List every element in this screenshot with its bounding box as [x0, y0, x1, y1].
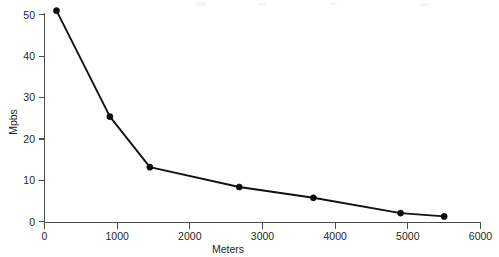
- data-point: [441, 213, 447, 219]
- y-tick-label: 0: [29, 216, 35, 228]
- x-axis: 0 1000 2000 3000 4000 5000 6000 Meters: [42, 223, 493, 256]
- data-point: [310, 195, 316, 201]
- data-point: [107, 114, 113, 120]
- y-tick-label: 50: [23, 9, 35, 21]
- y-tick-label: 30: [23, 91, 35, 103]
- y-axis-tick-labels: 50 40 30 20 10 0: [23, 9, 35, 228]
- x-tick-label: 0: [42, 230, 48, 242]
- y-axis: 50 40 30 20 10 0 Mpbs: [7, 9, 45, 228]
- data-point: [53, 8, 59, 14]
- y-tick-label: 40: [23, 50, 35, 62]
- chart-figure: 50 40 30 20 10 0 Mpbs 0 1000: [0, 0, 499, 257]
- data-point: [236, 184, 242, 190]
- x-tick-label: 6000: [469, 230, 493, 242]
- x-tick-label: 1000: [106, 230, 130, 242]
- x-tick-label: 3000: [251, 230, 275, 242]
- x-tick-label: 4000: [324, 230, 348, 242]
- y-tick-label: 10: [23, 174, 35, 186]
- y-axis-title: Mpbs: [7, 109, 19, 135]
- data-point: [397, 210, 403, 216]
- x-tick-label: 2000: [178, 230, 202, 242]
- x-tick-label: 5000: [396, 230, 420, 242]
- data-point: [147, 164, 153, 170]
- series-line: [56, 11, 444, 217]
- x-axis-title: Meters: [212, 243, 244, 255]
- x-axis-ticks: [45, 223, 481, 229]
- data-series: [53, 8, 447, 220]
- y-axis-ticks: [39, 15, 45, 222]
- line-chart-canvas: 50 40 30 20 10 0 Mpbs 0 1000: [0, 0, 499, 257]
- x-axis-tick-labels: 0 1000 2000 3000 4000 5000 6000: [42, 230, 493, 242]
- y-tick-label: 20: [23, 133, 35, 145]
